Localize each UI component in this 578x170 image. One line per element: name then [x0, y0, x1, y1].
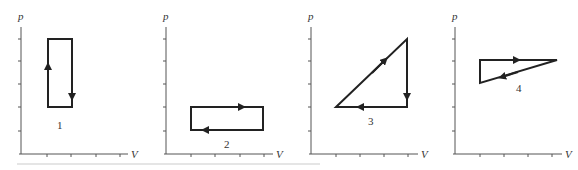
panel-4: p V 4: [451, 10, 573, 160]
arrow-down-left-icon: [502, 72, 518, 77]
y-axis-label: p: [451, 10, 458, 22]
y-axis-label: p: [162, 10, 169, 22]
x-axis-label: V: [276, 148, 284, 160]
panel-number: 2: [224, 138, 230, 150]
cycle-path: [191, 107, 263, 130]
pv-diagrams-figure: p V 1 p V: [0, 0, 578, 170]
cycle-path: [48, 39, 72, 107]
panel-number: 4: [516, 82, 522, 94]
arrow-up-right-icon: [372, 60, 385, 73]
x-axis-label: V: [131, 148, 139, 160]
panel-2: p V 2: [162, 10, 284, 160]
x-axis-label: V: [565, 148, 573, 160]
y-axis-label: p: [307, 10, 314, 22]
panel-number: 3: [368, 115, 374, 127]
cycle-path: [336, 39, 407, 107]
cycle-path: [480, 60, 557, 83]
y-axis-label: p: [17, 10, 24, 22]
panel-3: p V 3: [307, 10, 429, 160]
panel-1: p V 1: [17, 10, 139, 160]
x-axis-label: V: [421, 148, 429, 160]
panel-number: 1: [57, 119, 63, 131]
